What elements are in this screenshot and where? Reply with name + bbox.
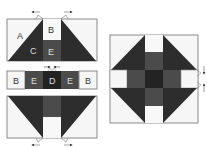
seam-notch-right [61,15,68,19]
block-top-e [145,52,163,70]
block-mid-e-right [163,70,181,88]
strip-label-1: B [13,76,19,86]
strip-label-4: E [67,76,73,86]
strip-label-5: B [85,76,91,86]
top-panel: A B C E [7,12,97,61]
block-mid-b-left [110,70,127,88]
block-mid-d [145,70,163,88]
bottom-panel [7,96,97,145]
bottom-piece-e-square [43,96,61,117]
bottom-notch-left [36,138,43,142]
label-a: A [17,31,23,41]
label-e: E [48,47,54,57]
assembled-block [110,35,204,123]
strip-label-3: D [49,76,56,86]
block-mid-b-right [181,70,198,88]
seam-notch-left [36,15,43,19]
press-arrows-center [44,67,60,71]
label-b: B [48,25,54,35]
bottom-notch-right [61,138,68,142]
block-bottom-b [145,106,163,123]
strip-label-2: E [31,76,37,86]
label-c: C [30,46,37,56]
block-top-b [145,35,163,52]
block-bottom-e [145,88,163,106]
quilt-block-diagram: A B C E B E D E B [0,0,207,148]
bottom-piece-b-square [43,117,61,138]
middle-strip: B E D E B [7,71,97,89]
block-mid-e-left [127,70,145,88]
